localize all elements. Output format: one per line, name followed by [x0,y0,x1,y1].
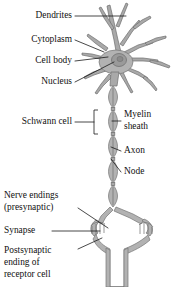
label-synapse: Synapse [4,225,35,235]
label-axon: Axon [124,145,145,155]
label-postsynaptic-line2: ending of [4,257,41,267]
label-group-left: Dendrites Cytoplasm Cell body Nucleus Sc… [22,10,73,126]
label-cell-body: Cell body [35,55,72,65]
label-group-bottom: Nerve endings (presynaptic) Synapse Post… [4,190,59,279]
neuron-diagram: Dendrites Cytoplasm Cell body Nucleus Sc… [0,0,174,287]
nucleolus-shape [117,56,123,61]
label-schwann-cell: Schwann cell [22,116,73,126]
label-nucleus: Nucleus [41,76,72,86]
label-group-right: Myelin sheath Axon Node [124,109,151,176]
label-nerve-endings-line2: (presynaptic) [4,202,53,213]
axon-myelin-segments [109,86,118,207]
label-postsynaptic-line3: receptor cell [4,269,51,279]
diagram-canvas: Dendrites Cytoplasm Cell body Nucleus Sc… [0,0,174,287]
postsynaptic-cell-shape [93,234,150,287]
axon-hillock [110,72,119,86]
label-postsynaptic-line1: Postsynaptic [4,245,51,255]
schwann-bracket [94,110,98,134]
label-myelin-line1: Myelin [124,109,151,119]
label-dendrites: Dendrites [36,10,73,20]
axon-terminals [91,207,153,236]
label-myelin-line2: sheath [124,121,148,131]
label-node: Node [124,166,144,176]
label-cytoplasm: Cytoplasm [31,34,72,44]
label-nerve-endings-line1: Nerve endings [4,190,59,200]
